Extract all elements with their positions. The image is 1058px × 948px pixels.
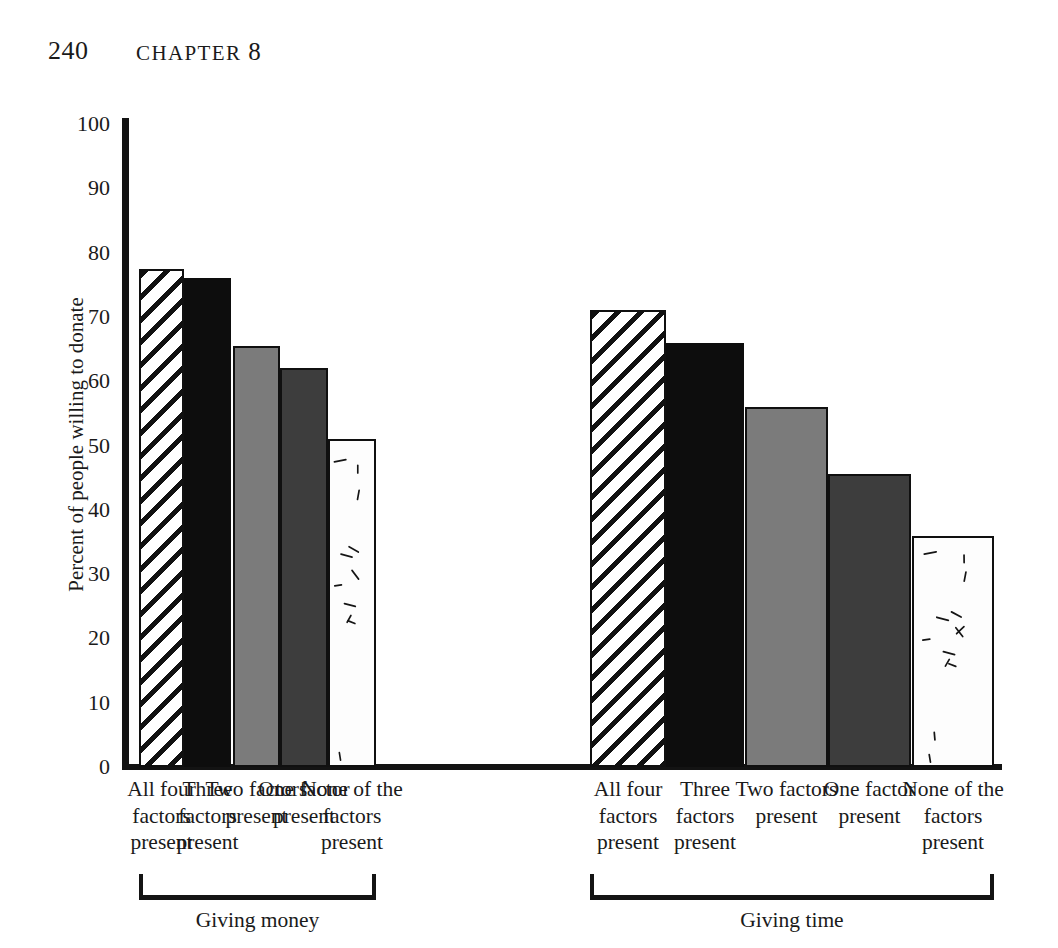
- bar-1-4-dark-gray: [280, 368, 328, 767]
- category-label-1-5: None of the factors present: [300, 776, 404, 856]
- bar-2-5-white-dashes: [912, 536, 994, 767]
- bar-2-1-diagonal-hatch: [590, 310, 666, 767]
- bar-chart: Percent of people willing to donate 1009…: [0, 0, 1058, 948]
- bar-1-5-white-dashes: [328, 439, 376, 767]
- category-label-2-5: None of the factors present: [901, 776, 1005, 856]
- bar-2-3-medium-gray: [745, 407, 828, 767]
- bar-2-4-dark-gray: [828, 474, 911, 767]
- group-label-2: Giving time: [590, 908, 994, 933]
- group-bracket-2: [590, 874, 994, 900]
- plot-area: [0, 0, 1058, 767]
- bar-2-2-solid-black: [666, 343, 744, 767]
- bar-1-2-solid-black: [184, 278, 231, 767]
- group-label-1: Giving money: [139, 908, 376, 933]
- group-bracket-1: [139, 874, 376, 900]
- bar-1-1-diagonal-hatch: [139, 269, 184, 767]
- bar-1-3-medium-gray: [233, 346, 280, 767]
